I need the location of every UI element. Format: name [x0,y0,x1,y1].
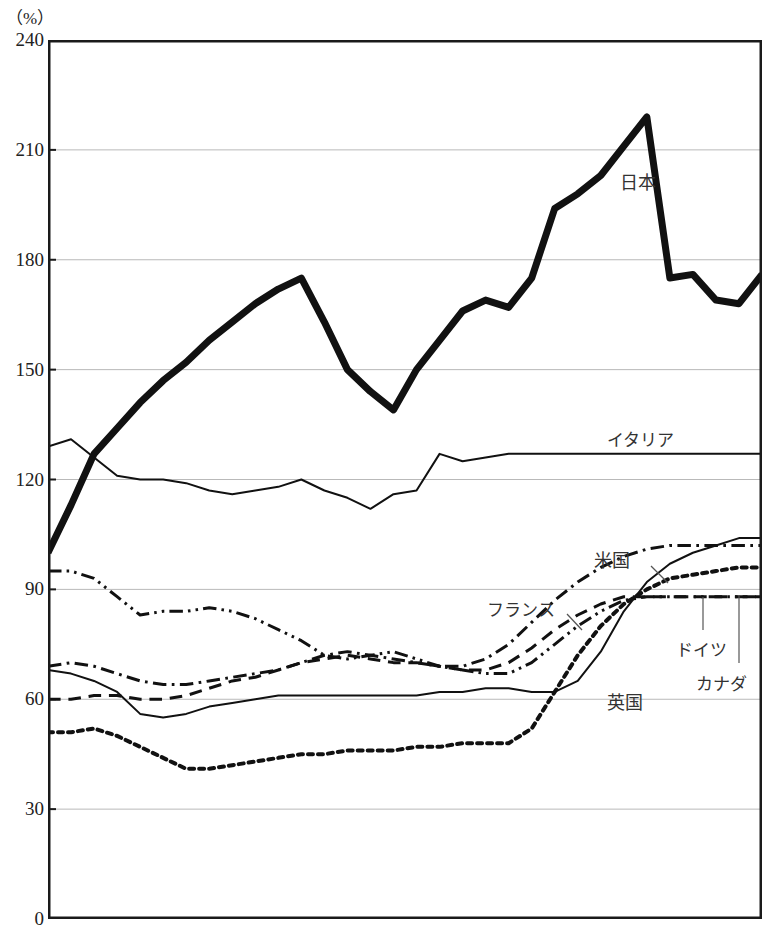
series-label-カナダ: カナダ [696,670,747,695]
y-axis-tick-120: 120 [0,469,44,491]
y-axis-tick-30: 30 [0,798,44,820]
series-label-フランス: フランス [487,596,555,621]
series-label-米国: 米国 [594,546,630,572]
y-axis-tick-150: 150 [0,359,44,381]
y-axis-tick-210: 210 [0,139,44,161]
y-axis-tick-0: 0 [0,908,44,930]
series-label-日本: 日本 [620,168,656,194]
y-axis-tick-180: 180 [0,249,44,271]
y-axis-tick-90: 90 [0,578,44,600]
y-axis-tick-labels: 0306090120150180210240 [0,0,44,943]
series-label-ドイツ: ドイツ [676,636,727,661]
series-label-イタリア: イタリア [607,426,674,451]
y-axis-tick-240: 240 [0,29,44,51]
series-label-英国: 英国 [607,688,643,714]
y-axis-tick-60: 60 [0,688,44,710]
series-line-3 [48,545,762,684]
chart-canvas: （%） 0306090120150180210240 日本イタリア米国フランスド… [0,0,775,943]
leader-us [651,566,668,583]
series-line-4 [48,538,762,717]
